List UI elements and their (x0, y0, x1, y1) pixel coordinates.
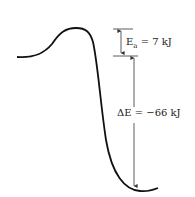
energy-curve-graphic (0, 0, 195, 197)
energy-diagram: Ea = 7 kJ ΔE = −66 kJ (0, 0, 195, 197)
ea-label: Ea = 7 kJ (126, 36, 172, 50)
delta-e-label: ΔE = −66 kJ (117, 107, 181, 118)
